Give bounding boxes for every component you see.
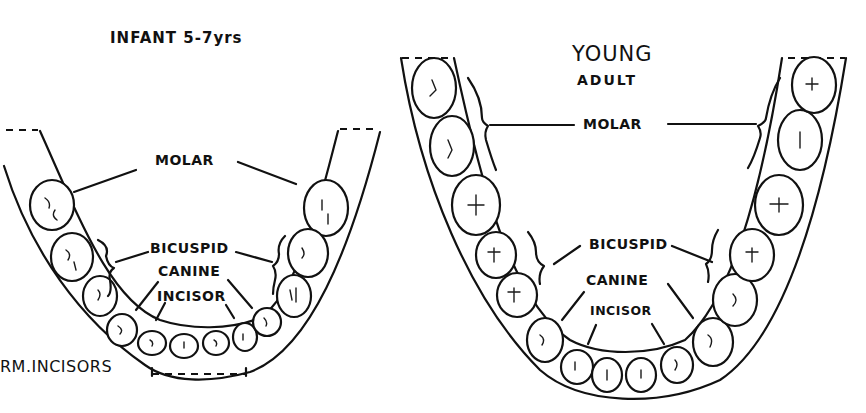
adult-bicuspid-left-1 xyxy=(476,232,516,278)
infant-title: INFANT 5-7yrs xyxy=(110,29,242,47)
adult-bicuspid-label: BICUSPID xyxy=(589,236,668,252)
infant-bicuspid-leader-left xyxy=(116,252,148,262)
adult-incisor-leader-left xyxy=(588,325,596,344)
adult-bicuspid-brace-right xyxy=(706,230,718,282)
adult-molar-label: MOLAR xyxy=(583,116,642,132)
adult-molar-right-1 xyxy=(792,57,836,113)
infant-molar-leader-right xyxy=(238,162,296,184)
infant-molar-right-1 xyxy=(304,180,348,236)
adult-bicuspid-leader-left xyxy=(554,246,580,264)
infant-incisor-label: INCISOR xyxy=(157,288,226,304)
infant-bicuspid-leader-right xyxy=(236,252,272,262)
adult-incisor-leader-right xyxy=(652,324,664,344)
adult-canine-leader-right xyxy=(668,284,693,318)
infant-canine-leader-right xyxy=(228,280,252,308)
young-adult-arch xyxy=(401,57,846,399)
adult-incisor-label: INCISOR xyxy=(590,303,652,318)
infant-molar-label: MOLAR xyxy=(155,152,214,168)
adult-canine-leader-left xyxy=(562,292,584,320)
infant-bicuspid-right xyxy=(277,275,311,317)
adult-bicuspid-left-2 xyxy=(497,273,537,317)
infant-canine-label: CANINE xyxy=(158,263,220,279)
infant-canine-leader-left xyxy=(136,282,158,310)
adult-bicuspid-brace-left xyxy=(528,232,544,284)
infant-molar-left-2 xyxy=(51,233,93,281)
adult-canine-label: CANINE xyxy=(586,272,648,288)
adult-molar-left-1 xyxy=(412,58,456,118)
adult-canine-left xyxy=(527,318,563,362)
dental-arches-drawing xyxy=(0,0,866,413)
adult-bicuspid-leader-right xyxy=(672,246,712,262)
young-adult-title-line1: YOUNG xyxy=(572,42,653,66)
infant-molar-left-1 xyxy=(30,180,74,230)
infant-molar-right-2 xyxy=(288,229,328,277)
infant-permanent-incisors-label: RM.INCISORS xyxy=(0,357,112,376)
infant-incisor-leader-left xyxy=(156,303,165,320)
infant-incisor-leader-right xyxy=(226,305,234,318)
young-adult-title-line2: ADULT xyxy=(577,72,637,88)
adult-incisor-1 xyxy=(561,350,593,384)
infant-molar-leader-left xyxy=(74,170,136,192)
adult-molar-left-2 xyxy=(430,116,474,176)
infant-bicuspid-label: BICUSPID xyxy=(150,240,229,256)
